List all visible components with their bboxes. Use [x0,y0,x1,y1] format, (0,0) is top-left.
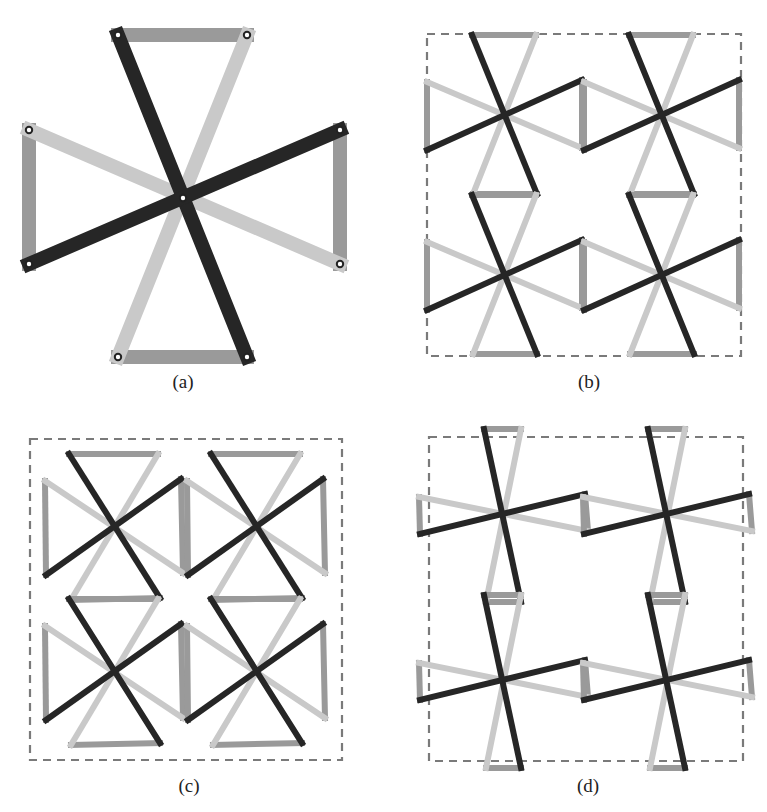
panel-b-tessellation [427,34,741,356]
rotating-unit [45,454,183,600]
center-pivot-joint [180,195,186,201]
pivot-joint [337,261,343,267]
connector-link-right [323,624,325,718]
figure-canvas [0,0,767,812]
panel-c-tessellation [30,439,342,760]
connector-link-left [45,626,46,720]
pivot-joint [337,127,343,133]
connector-link-left [187,481,188,575]
pivot-joint [26,261,32,267]
pivot-joint [26,127,32,133]
connector-link-left [45,481,46,575]
rotating-unit [26,32,343,360]
rotating-unit [419,595,588,768]
rotating-unit [427,35,582,194]
rotating-unit [584,35,739,194]
connector-link-left [419,663,420,700]
rotating-unit [583,429,752,602]
connector-link-bottom [213,743,302,745]
panel-d-tessellation [419,429,752,768]
rotating-unit [187,454,325,600]
panel-label-b: (b) [578,372,600,391]
connector-link-left [187,626,188,720]
panel-a-single-unit [26,32,343,360]
unit-cell-dashed-boundary [429,437,743,761]
connector-link-left [419,497,420,534]
connector-link-right [323,479,325,573]
pivot-joint [244,354,250,360]
pivot-joint [115,32,121,38]
rotating-unit [584,195,739,354]
connector-link-right [749,660,752,697]
rotating-unit [45,599,183,745]
connector-link-right [181,624,183,718]
connector-link-right [181,479,183,573]
rotating-unit [427,195,582,354]
connector-link-bottom [71,743,160,745]
connector-link-left [583,663,584,700]
pivot-joint [244,32,250,38]
rotating-unit [187,599,325,745]
panel-label-d: (d) [577,776,599,795]
pivot-joint [115,354,121,360]
kirigami-linkage-figure: (a) (b) (c) (d) [0,0,767,812]
connector-link-left [583,497,584,534]
rotating-unit [419,429,588,602]
connector-link-right [749,494,752,531]
panel-label-c: (c) [178,776,199,795]
panel-label-a: (a) [172,372,193,391]
rotating-unit [583,595,752,768]
